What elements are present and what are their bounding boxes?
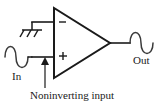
output-sine-waveform (130, 33, 153, 54)
ground-hatch-1 (20, 30, 24, 37)
input-label: In (12, 71, 21, 82)
opamp-circuit-figure: In Out Noninverting input (0, 0, 163, 104)
opamp-triangle-body (54, 8, 110, 78)
ground-hatch-3 (34, 30, 38, 37)
arrow-up-icon (41, 57, 49, 65)
input-sine-waveform (5, 47, 28, 68)
noninverting-input-callout-label: Noninverting input (30, 90, 114, 101)
ground-hatch-2 (27, 30, 31, 37)
output-label: Out (133, 55, 150, 66)
